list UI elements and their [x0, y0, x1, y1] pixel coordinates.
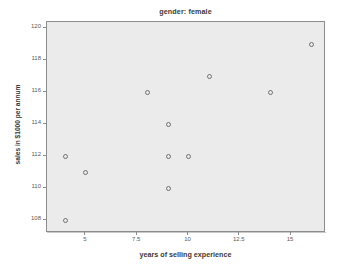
chart-title: gender: female	[46, 7, 325, 16]
x-tick-mark	[238, 232, 239, 235]
data-point	[268, 90, 273, 95]
data-point	[63, 154, 68, 159]
x-tick-mark	[84, 232, 85, 235]
data-point	[83, 170, 88, 175]
plot-area	[46, 21, 325, 232]
y-tick-label: 118	[31, 55, 41, 61]
y-axis-ticks: 108110112114116118120	[0, 21, 46, 232]
y-tick-label: 116	[31, 87, 41, 93]
x-tick-mark	[136, 232, 137, 235]
data-point	[166, 154, 171, 159]
data-point	[145, 90, 150, 95]
y-tick-label: 112	[31, 151, 41, 157]
x-tick-label: 5	[83, 236, 86, 242]
data-point	[309, 42, 314, 47]
y-tick-label: 108	[31, 215, 41, 221]
x-axis-ticks: 57.51012.515	[46, 232, 325, 250]
data-point	[166, 122, 171, 127]
x-tick-label: 12.5	[233, 236, 245, 242]
x-tick-label: 7.5	[132, 236, 140, 242]
data-point	[63, 218, 68, 223]
data-point	[207, 74, 212, 79]
x-tick-mark	[187, 232, 188, 235]
scatter-chart: gender: female sales in $1000 per annum …	[0, 0, 343, 269]
x-tick-label: 10	[184, 236, 191, 242]
y-tick-label: 110	[31, 183, 41, 189]
x-axis-label: years of selling experience	[46, 250, 325, 259]
data-point	[186, 154, 191, 159]
data-point	[166, 186, 171, 191]
x-tick-label: 15	[287, 236, 294, 242]
y-tick-label: 120	[31, 23, 41, 29]
data-layer	[47, 22, 324, 231]
x-tick-mark	[290, 232, 291, 235]
y-tick-label: 114	[31, 119, 41, 125]
